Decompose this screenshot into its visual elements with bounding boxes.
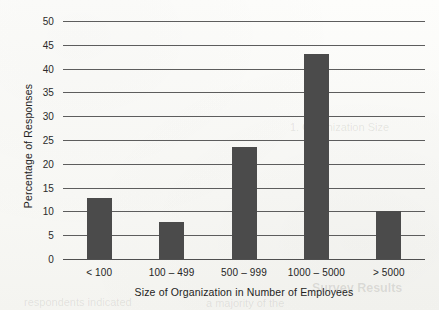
gridline [63, 92, 425, 93]
x-axis-line [63, 259, 425, 260]
gridline [63, 140, 425, 141]
y-axis-tick-label: 15 [43, 182, 63, 193]
x-axis-tick-label: 100 – 499 [149, 267, 195, 278]
y-axis-tick-label: 45 [43, 39, 63, 50]
x-axis-tick-label: 1000 – 5000 [288, 267, 345, 278]
y-axis-title: Percentage of Responses [22, 56, 34, 236]
gridline [63, 69, 425, 70]
gridline [63, 21, 425, 22]
x-axis-title: Size of Organization in Number of Employ… [63, 286, 425, 298]
gridline [63, 116, 425, 117]
scan-artifact-text: a majority of the [206, 297, 284, 309]
y-axis-tick-label: 0 [48, 254, 63, 265]
x-axis-tick-label: > 5000 [373, 267, 405, 278]
bar [159, 222, 184, 259]
y-axis-tick-label: 35 [43, 87, 63, 98]
gridline [63, 45, 425, 46]
bar [304, 54, 329, 259]
plot-area: 05101520253035404550 < 100100 – 499500 –… [63, 21, 425, 259]
y-axis-tick-label: 10 [43, 206, 63, 217]
y-axis-tick-label: 5 [48, 230, 63, 241]
chart-figure: Survey Results respondents indicated a m… [0, 0, 439, 310]
bar [376, 211, 401, 259]
y-axis-tick-label: 50 [43, 16, 63, 27]
y-axis-tick-label: 20 [43, 158, 63, 169]
bar [87, 198, 112, 259]
x-axis-tick-label: 500 – 999 [221, 267, 267, 278]
x-axis-tick-label: < 100 [86, 267, 112, 278]
y-axis-tick-label: 40 [43, 63, 63, 74]
bar [232, 147, 257, 259]
y-axis-tick-label: 30 [43, 111, 63, 122]
y-axis-tick-label: 25 [43, 135, 63, 146]
